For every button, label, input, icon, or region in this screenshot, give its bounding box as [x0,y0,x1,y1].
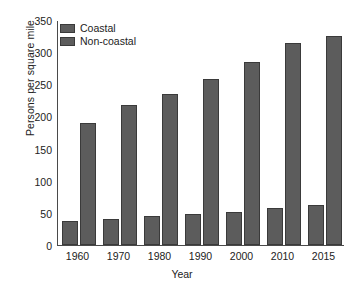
legend-item-non-coastal[interactable]: Non-coastal [60,35,136,47]
legend-swatch-icon [60,37,75,46]
bar-group [103,21,137,245]
bar-non-coastal-1960 [80,123,96,245]
chart-legend: CoastalNon-coastal [60,22,136,48]
legend-label: Coastal [80,23,116,34]
bar-coastal-2010 [267,208,283,245]
y-tick-label: 350 [18,15,52,27]
bar-coastal-2000 [226,212,242,245]
bar-coastal-1980 [144,216,160,245]
bar-group [226,21,260,245]
bar-group [308,21,342,245]
bar-coastal-2015 [308,205,324,245]
bar-group [267,21,301,245]
bar-coastal-1990 [185,214,201,245]
y-tick-label: 300 [18,47,52,59]
bar-coastal-1960 [62,221,78,245]
x-axis-line [57,245,344,246]
y-tick-label: 100 [18,176,52,188]
x-tick-label: 2015 [294,250,354,262]
bar-non-coastal-1980 [162,94,178,245]
legend-label: Non-coastal [80,36,136,47]
bar-chart-figure: Persons per square mile 0501001502002503… [0,0,364,289]
bars-layer [58,21,344,245]
bar-non-coastal-1990 [203,79,219,246]
bar-group [144,21,178,245]
bar-non-coastal-2015 [326,36,342,245]
x-axis-title: Year [0,268,364,280]
bar-non-coastal-2000 [244,62,260,245]
y-tick-label: 150 [18,144,52,156]
bar-coastal-1970 [103,219,119,245]
legend-swatch-icon [60,24,75,33]
bar-group [62,21,96,245]
bar-non-coastal-1970 [121,105,137,245]
legend-item-coastal[interactable]: Coastal [60,22,136,34]
y-tick-label: 250 [18,79,52,91]
plot-area [57,21,344,246]
y-tick-label: 200 [18,111,52,123]
y-tick-label: 50 [18,208,52,220]
bar-non-coastal-2010 [285,43,301,246]
bar-group [185,21,219,245]
